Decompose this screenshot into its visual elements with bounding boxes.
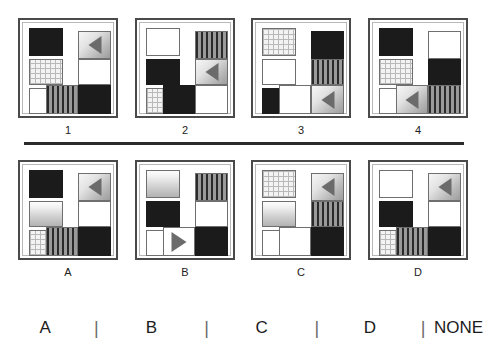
answer-separator-4: | [417,318,429,339]
tile-white [279,227,311,256]
tile-black [146,201,180,227]
answer-choice-none[interactable]: NONE [429,318,488,338]
tile-black [163,85,195,114]
tile-black [29,28,63,56]
tile-arrow-left [311,85,344,114]
tile-stripe [46,227,78,256]
tile-arrow-right [163,227,195,256]
panel-inner [255,164,347,256]
tile-white [195,85,228,114]
arrow-left-icon [88,178,101,196]
tile-black [311,227,344,256]
tile-white [279,85,311,114]
arrow-left-icon [406,91,419,109]
tile-white [428,201,461,227]
tile-dots [262,28,296,56]
option-panel-a[interactable] [18,160,118,260]
tile-white [428,31,461,59]
tile-white [146,28,180,56]
problem-panel-1-label: 1 [18,124,118,136]
tile-gradient [29,201,63,227]
tile-stripe [311,59,344,85]
option-panel-c-label: C [251,266,351,278]
panel-inner [139,164,231,256]
tile-black [29,170,63,198]
tile-black [78,85,111,114]
tile-black [195,227,228,256]
arrow-right-icon [172,232,187,252]
tile-arrow-left [396,85,428,114]
tile-arrow-left [311,173,344,201]
problem-panel-2[interactable] [135,18,235,118]
tile-black [146,59,180,85]
tile-black [428,59,461,85]
answer-separator-2: | [201,318,213,339]
panel-inner [372,22,464,114]
tile-gradient [262,201,296,227]
tile-stripe [311,201,344,227]
panel-inner [372,164,464,256]
arrow-left-icon [321,91,334,109]
arrow-left-icon [321,178,334,196]
option-panel-c[interactable] [251,160,351,260]
panel-inner [139,22,231,114]
problem-panel-2-label: 2 [135,124,235,136]
tile-stripe [396,227,428,256]
panel-inner [22,22,114,114]
tile-dots [379,59,413,85]
option-panel-d-label: D [368,266,468,278]
answer-bar: A | B | C | D | NONE [0,312,488,344]
answer-choice-b[interactable]: B [102,318,200,338]
option-panel-a-label: A [18,266,118,278]
tile-black [379,201,413,227]
answer-choice-c[interactable]: C [213,318,311,338]
tile-stripe [428,85,461,114]
panel-inner [255,22,347,114]
tile-arrow-left [195,59,228,85]
arrow-left-icon [205,63,218,81]
tile-arrow-left [428,173,461,201]
option-panel-b-label: B [135,266,235,278]
answer-separator-1: | [91,318,103,339]
tile-stripe [195,31,228,59]
tile-black [311,31,344,59]
tile-stripe [195,173,228,201]
option-panel-d[interactable] [368,160,468,260]
tile-black [78,227,111,256]
tile-white [262,59,296,85]
problem-panel-4[interactable] [368,18,468,118]
problem-panel-1[interactable] [18,18,118,118]
answer-choice-a[interactable]: A [0,318,91,338]
tile-arrow-left [78,173,111,201]
tile-stripe [46,85,78,114]
answer-separator-3: | [311,318,323,339]
tile-black [379,28,413,56]
problem-panel-3-label: 3 [251,124,351,136]
tile-white [195,201,228,227]
tile-gradient [146,170,180,198]
tile-black [428,227,461,256]
tile-white [78,201,111,227]
arrow-left-icon [88,36,101,54]
section-divider [24,142,464,145]
tile-white [78,59,111,85]
tile-dots [29,59,63,85]
problem-panel-4-label: 4 [368,124,468,136]
problem-panel-3[interactable] [251,18,351,118]
option-panel-b[interactable] [135,160,235,260]
tile-arrow-left [78,31,111,59]
panel-inner [22,164,114,256]
answer-choice-d[interactable]: D [323,318,417,338]
tile-white [379,170,413,198]
tile-dots [262,170,296,198]
puzzle-stage: 1 2 3 [0,0,488,356]
arrow-left-icon [438,178,451,196]
